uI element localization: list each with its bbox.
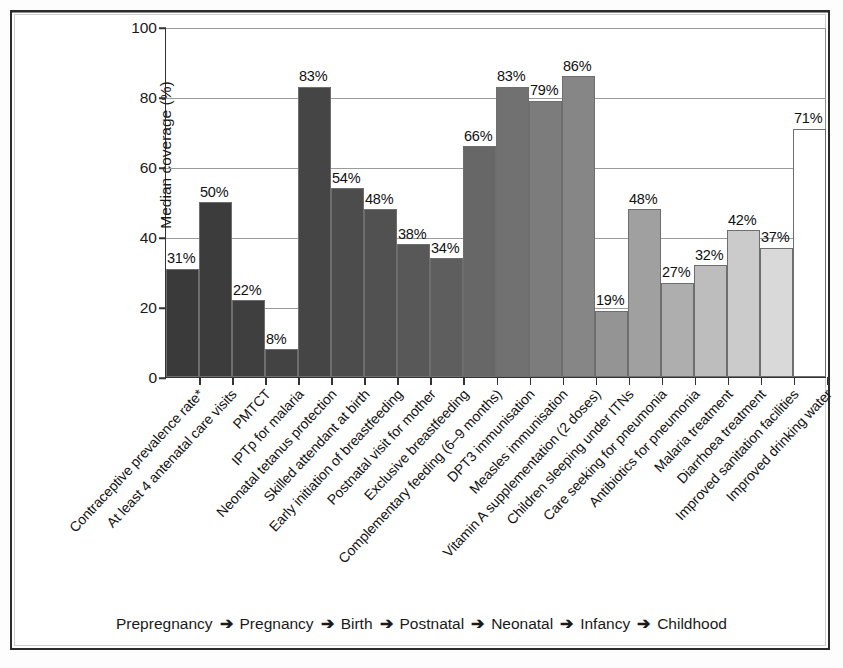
bar-slot: 79%: [529, 28, 562, 377]
bar-slot: 66%: [463, 28, 496, 377]
bar[interactable]: [727, 230, 760, 377]
x-axis-tick-mark: [331, 377, 333, 385]
bar-slot: 48%: [364, 28, 397, 377]
y-axis-tick-mark: [159, 377, 166, 379]
bar-slot: 22%: [232, 28, 265, 377]
x-axis-tick-mark: [430, 377, 432, 385]
bar-value-label: 32%: [695, 248, 723, 263]
bar[interactable]: [364, 209, 397, 377]
bar-slot: 86%: [562, 28, 595, 377]
bar-value-label: 79%: [530, 83, 558, 98]
lifestage-label: Prepregnancy: [116, 615, 213, 632]
arrow-icon: ➔: [321, 615, 334, 632]
bar[interactable]: [232, 300, 265, 377]
x-axis-labels: Contraceptive prevalence rate*At least 4…: [165, 386, 826, 596]
bar[interactable]: [529, 101, 562, 378]
x-axis-tick-mark: [265, 377, 267, 385]
y-axis-tick-label: 40: [111, 229, 166, 247]
arrow-icon: ➔: [637, 615, 650, 632]
bar-slot: 38%: [397, 28, 430, 377]
x-axis-tick-mark: [497, 377, 499, 385]
bar-slot: 8%: [265, 28, 298, 377]
x-axis-tick-mark: [199, 377, 201, 385]
bar-value-label: 54%: [332, 171, 360, 186]
y-axis-tick-label: 0: [111, 369, 166, 387]
arrow-icon: ➔: [560, 615, 573, 632]
bar[interactable]: [760, 248, 793, 378]
y-axis-tick-mark: [159, 307, 166, 309]
bar-value-label: 8%: [266, 332, 287, 347]
bar-series: 31%50%22%8%83%54%48%38%34%66%83%79%86%19…: [166, 28, 826, 377]
bar-value-label: 34%: [431, 241, 459, 256]
y-axis-tick-label: 100: [111, 19, 166, 37]
bar-slot: 34%: [430, 28, 463, 377]
bar[interactable]: [265, 349, 298, 377]
bar[interactable]: [166, 269, 199, 378]
x-axis-tick-mark: [662, 377, 664, 385]
bar[interactable]: [199, 202, 232, 377]
bar-slot: 50%: [199, 28, 232, 377]
bar-value-label: 48%: [365, 192, 393, 207]
bar[interactable]: [496, 87, 529, 378]
bar-value-label: 31%: [167, 251, 195, 266]
bar[interactable]: [397, 244, 430, 377]
lifestage-label: Postnatal: [400, 615, 465, 632]
x-axis-tick-mark: [827, 377, 829, 385]
plot-area: Median coverage (%) 020406080100 31%50%2…: [165, 28, 826, 378]
x-axis-tick-mark: [463, 377, 465, 385]
bar[interactable]: [430, 258, 463, 377]
bar[interactable]: [793, 129, 826, 378]
bar-value-label: 83%: [299, 69, 327, 84]
lifestage-label: Infancy: [580, 615, 630, 632]
arrow-icon: ➔: [471, 615, 484, 632]
lifestage-label: Neonatal: [491, 615, 553, 632]
y-axis-tick-mark: [159, 97, 166, 99]
x-axis-tick-mark: [232, 377, 234, 385]
bar-slot: 83%: [496, 28, 529, 377]
x-axis-tick-mark: [530, 377, 532, 385]
y-axis-tick-label: 60: [111, 159, 166, 177]
bar-value-label: 83%: [497, 69, 525, 84]
bar-slot: 71%: [793, 28, 826, 377]
x-axis-tick-mark: [364, 377, 366, 385]
bar-value-label: 38%: [398, 227, 426, 242]
bar-value-label: 19%: [596, 293, 624, 308]
bar-slot: 83%: [298, 28, 331, 377]
lifestage-label: Pregnancy: [240, 615, 314, 632]
x-axis-tick-mark: [728, 377, 730, 385]
bar[interactable]: [694, 265, 727, 377]
bar-value-label: 71%: [794, 111, 822, 126]
bar[interactable]: [463, 146, 496, 377]
lifestage-label: Birth: [341, 615, 373, 632]
bar-slot: 27%: [661, 28, 694, 377]
bar-slot: 48%: [628, 28, 661, 377]
bar-value-label: 37%: [761, 230, 789, 245]
y-axis-tick-mark: [159, 167, 166, 169]
x-axis-tick-mark: [298, 377, 300, 385]
bar-slot: 31%: [166, 28, 199, 377]
bar-slot: 19%: [595, 28, 628, 377]
x-axis-tick-mark: [794, 377, 796, 385]
arrow-icon: ➔: [380, 615, 393, 632]
bar[interactable]: [331, 188, 364, 377]
lifestage-flow-legend: Prepregnancy➔Pregnancy➔Birth➔Postnatal➔N…: [0, 614, 843, 633]
bar[interactable]: [298, 87, 331, 378]
x-axis-tick-mark: [397, 377, 399, 385]
bar-slot: 32%: [694, 28, 727, 377]
chart-figure: Median coverage (%) 020406080100 31%50%2…: [0, 0, 843, 668]
bar-value-label: 22%: [233, 283, 261, 298]
x-axis-tick-mark: [596, 377, 598, 385]
x-axis-tick-mark: [563, 377, 565, 385]
bar[interactable]: [661, 283, 694, 378]
x-axis-tick-mark: [761, 377, 763, 385]
bar-value-label: 66%: [464, 129, 492, 144]
x-axis-tick-mark: [695, 377, 697, 385]
y-axis-tick-label: 20: [111, 299, 166, 317]
arrow-icon: ➔: [220, 615, 233, 632]
bar-value-label: 50%: [200, 185, 228, 200]
bar[interactable]: [628, 209, 661, 377]
bar[interactable]: [595, 311, 628, 378]
bar-value-label: 48%: [629, 192, 657, 207]
bar-value-label: 86%: [563, 59, 591, 74]
bar[interactable]: [562, 76, 595, 377]
